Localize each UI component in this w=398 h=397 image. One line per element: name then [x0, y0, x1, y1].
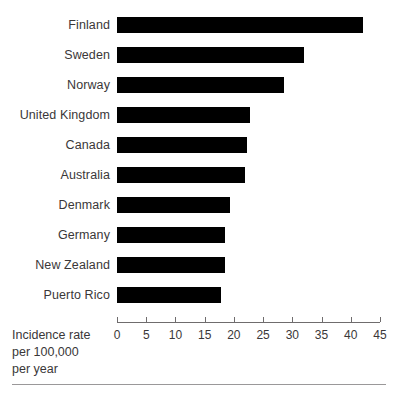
- category-label: Australia: [0, 160, 110, 190]
- x-axis-tick: [234, 317, 235, 322]
- category-label: Germany: [0, 220, 110, 250]
- x-axis-tick: [380, 317, 381, 322]
- x-axis-tick: [117, 317, 118, 322]
- category-label: Denmark: [0, 190, 110, 220]
- bar: [117, 47, 304, 63]
- category-label: Norway: [0, 70, 110, 100]
- bar: [117, 197, 230, 213]
- bar-row: Finland: [0, 10, 398, 40]
- bar-row: Australia: [0, 160, 398, 190]
- category-label: Finland: [0, 10, 110, 40]
- x-axis-line: [117, 322, 380, 323]
- category-label: New Zealand: [0, 250, 110, 280]
- bar-row: Denmark: [0, 190, 398, 220]
- bar-row: Germany: [0, 220, 398, 250]
- x-axis-tick-label: 45: [367, 328, 393, 342]
- x-axis-tick-label: 25: [250, 328, 276, 342]
- bar: [117, 77, 284, 93]
- x-axis-tick: [146, 317, 147, 322]
- x-axis-tick-label: 20: [221, 328, 247, 342]
- bar-row: United Kingdom: [0, 100, 398, 130]
- x-axis-tick: [351, 317, 352, 322]
- category-label: Puerto Rico: [0, 280, 110, 310]
- x-axis-caption: Incidence rate per 100,000 per year: [12, 327, 117, 378]
- x-axis-tick: [205, 317, 206, 322]
- x-axis-tick-label: 15: [192, 328, 218, 342]
- bar: [117, 107, 250, 123]
- x-axis-caption-line-1: Incidence rate: [12, 327, 117, 344]
- x-axis-tick-label: 10: [162, 328, 188, 342]
- bar-row: Canada: [0, 130, 398, 160]
- x-axis-tick: [322, 317, 323, 322]
- x-axis-caption-line-2: per 100,000: [12, 344, 117, 361]
- bar: [117, 17, 363, 33]
- chart-figure: FinlandSwedenNorwayUnited KingdomCanadaA…: [0, 0, 398, 397]
- x-axis-tick: [175, 317, 176, 322]
- x-axis-tick: [292, 317, 293, 322]
- x-axis-tick-label: 35: [309, 328, 335, 342]
- x-axis-tick-label: 0: [104, 328, 130, 342]
- bar-row: New Zealand: [0, 250, 398, 280]
- bottom-divider: [12, 384, 386, 385]
- x-axis-tick-label: 5: [133, 328, 159, 342]
- bar-row: Sweden: [0, 40, 398, 70]
- bar: [117, 167, 245, 183]
- bar-row: Puerto Rico: [0, 280, 398, 310]
- bar: [117, 257, 225, 273]
- x-axis-tick-label: 40: [338, 328, 364, 342]
- category-label: Sweden: [0, 40, 110, 70]
- category-label: United Kingdom: [0, 100, 110, 130]
- bar: [117, 287, 221, 303]
- x-axis-tick: [263, 317, 264, 322]
- bar: [117, 227, 225, 243]
- category-label: Canada: [0, 130, 110, 160]
- bar-row: Norway: [0, 70, 398, 100]
- x-axis-caption-line-3: per year: [12, 361, 117, 378]
- bar: [117, 137, 247, 153]
- x-axis-tick-label: 30: [279, 328, 305, 342]
